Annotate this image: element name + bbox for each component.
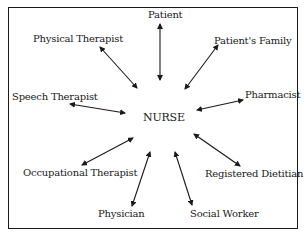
arrow-pharmacist bbox=[197, 100, 243, 110]
arrow-social-worker bbox=[175, 152, 192, 205]
node-pharmacist: Pharmacist bbox=[245, 89, 300, 100]
arrow-physician bbox=[132, 152, 150, 206]
node-patients-family: Patient's Family bbox=[214, 35, 291, 46]
node-physical-therapist: Physical Therapist bbox=[33, 33, 123, 44]
arrow-patients-family bbox=[185, 45, 218, 89]
node-social-worker: Social Worker bbox=[190, 208, 259, 219]
arrow-physical-therapist bbox=[100, 47, 137, 88]
arrow-speech-therapist bbox=[70, 104, 125, 113]
node-occupational-therapist: Occupational Therapist bbox=[23, 167, 137, 178]
node-registered-dietitian: Registered Dietitian bbox=[205, 168, 303, 179]
arrow-occupational-therapist bbox=[82, 138, 133, 165]
node-patient: Patient bbox=[148, 9, 182, 20]
node-speech-therapist: Speech Therapist bbox=[12, 91, 98, 102]
arrow-registered-dietitian bbox=[194, 134, 240, 166]
node-physician: Physician bbox=[98, 208, 145, 219]
center-node-nurse: NURSE bbox=[143, 111, 185, 124]
